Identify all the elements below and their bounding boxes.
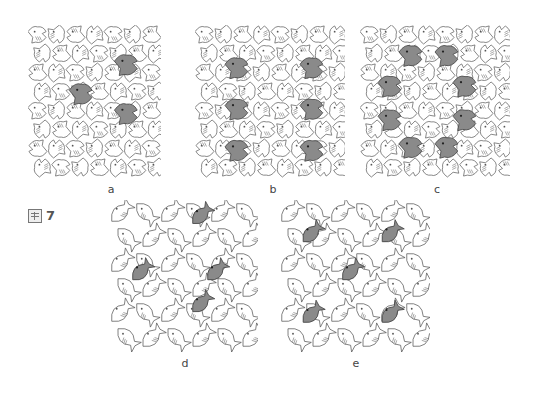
highlighted-tile — [299, 300, 326, 327]
highlighted-tile — [69, 84, 92, 105]
highlighted-tile — [225, 99, 248, 120]
highlighted-tile — [225, 58, 248, 79]
tessellation-panel-e — [278, 200, 430, 352]
panel-label-d: d — [175, 357, 195, 370]
figure-number: 7 — [46, 208, 55, 223]
highlighted-tile — [435, 137, 458, 158]
highlighted-tile — [225, 140, 248, 161]
highlighted-tile — [435, 45, 458, 66]
highlighted-tile — [453, 76, 476, 97]
highlighted-tile — [114, 55, 137, 76]
panel-label-a: a — [101, 183, 121, 196]
tessellation-panel-a — [28, 25, 161, 178]
highlighted-tile — [203, 258, 230, 285]
figure-label: 7 — [28, 208, 55, 223]
tessellation-panel-c — [360, 25, 510, 178]
highlighted-tile — [378, 110, 401, 131]
highlighted-tile — [378, 76, 401, 97]
highlighted-tile — [453, 110, 476, 131]
panel-label-b: b — [263, 183, 283, 196]
tessellation-panel-d — [108, 200, 258, 352]
highlighted-tile — [114, 104, 137, 125]
panel-label-c: c — [427, 183, 447, 196]
panel-label-e: e — [346, 357, 366, 370]
figure-char-glyph — [28, 209, 42, 223]
highlighted-tile — [188, 290, 215, 317]
highlighted-tile — [300, 140, 323, 161]
highlighted-tile — [378, 300, 405, 327]
highlighted-tile — [338, 258, 365, 285]
tessellation-panel-b — [195, 25, 345, 178]
highlighted-tile — [399, 45, 422, 66]
highlighted-tile — [300, 99, 323, 120]
highlighted-tile — [300, 58, 323, 79]
